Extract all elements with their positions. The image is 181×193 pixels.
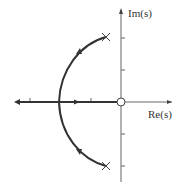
y-axis-label: Im(s) [128, 7, 152, 20]
upper-locus-branch [59, 37, 106, 102]
imag-axis-arrow-icon [119, 8, 123, 14]
root-locus-diagram: Im(s) Re(s) [0, 0, 181, 193]
locus-arrow-right-icon [74, 100, 80, 105]
locus-arrow-left-icon [14, 99, 20, 105]
lower-locus-branch [59, 102, 106, 166]
zero-icon [117, 98, 125, 106]
real-axis-arrow-icon [167, 100, 172, 104]
x-axis-label: Re(s) [148, 108, 172, 121]
